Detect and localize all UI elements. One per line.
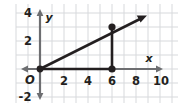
y-axis-label: y: [45, 11, 53, 24]
coordinate-plane-svg: 4 2 -2 2 4 6 8 10 O y x: [0, 0, 181, 107]
y-tick-label-neg2: -2: [19, 90, 32, 104]
y-tick-label-4: 4: [24, 6, 32, 20]
x-tick-label-6: 6: [108, 74, 116, 88]
x-tick-label-2: 2: [60, 74, 68, 88]
point-6-3: [108, 23, 115, 30]
origin-label: O: [25, 73, 35, 87]
x-tick-label-4: 4: [84, 74, 92, 88]
x-tick-label-8: 8: [132, 74, 140, 88]
coordinate-graph-figure: 4 2 -2 2 4 6 8 10 O y x: [0, 0, 181, 107]
point-origin: [37, 66, 44, 73]
point-6-0: [108, 65, 115, 72]
x-tick-label-10: 10: [153, 74, 169, 88]
y-tick-label-2: 2: [24, 34, 32, 48]
x-axis-label: x: [144, 52, 153, 65]
